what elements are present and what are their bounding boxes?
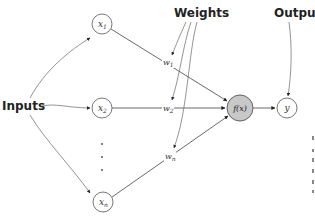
cropped-text-fragment [312,136,314,193]
input-arrow-x1 [30,38,90,98]
weight-w1: w1 [162,56,174,68]
inputs-label: Inputs [2,99,45,113]
weights-label: Weights [174,6,229,20]
svg-text:f(x): f(x) [232,104,247,113]
output-node: y [277,98,297,118]
output-label: Output [274,6,315,20]
input-node-x2: x2 [92,98,112,118]
weight-w2: w2 [162,102,174,114]
perceptron-diagram: Inputs x1 x2 xn w1 w2 wn Weights [0,0,315,216]
output-arrow [288,22,291,96]
input-arrow-xn [30,115,90,193]
input-node-x1: x1 [92,14,112,34]
ellipsis-dots [101,143,103,171]
function-node: f(x) [227,95,253,121]
svg-text:y: y [283,103,290,113]
input-arrow-x2 [42,105,90,108]
diagram-svg: Inputs x1 x2 xn w1 w2 wn Weights [0,0,315,216]
weights-arrow-w2 [172,22,191,100]
weight-wn: wn [164,150,176,162]
input-node-xn: xn [93,192,113,212]
